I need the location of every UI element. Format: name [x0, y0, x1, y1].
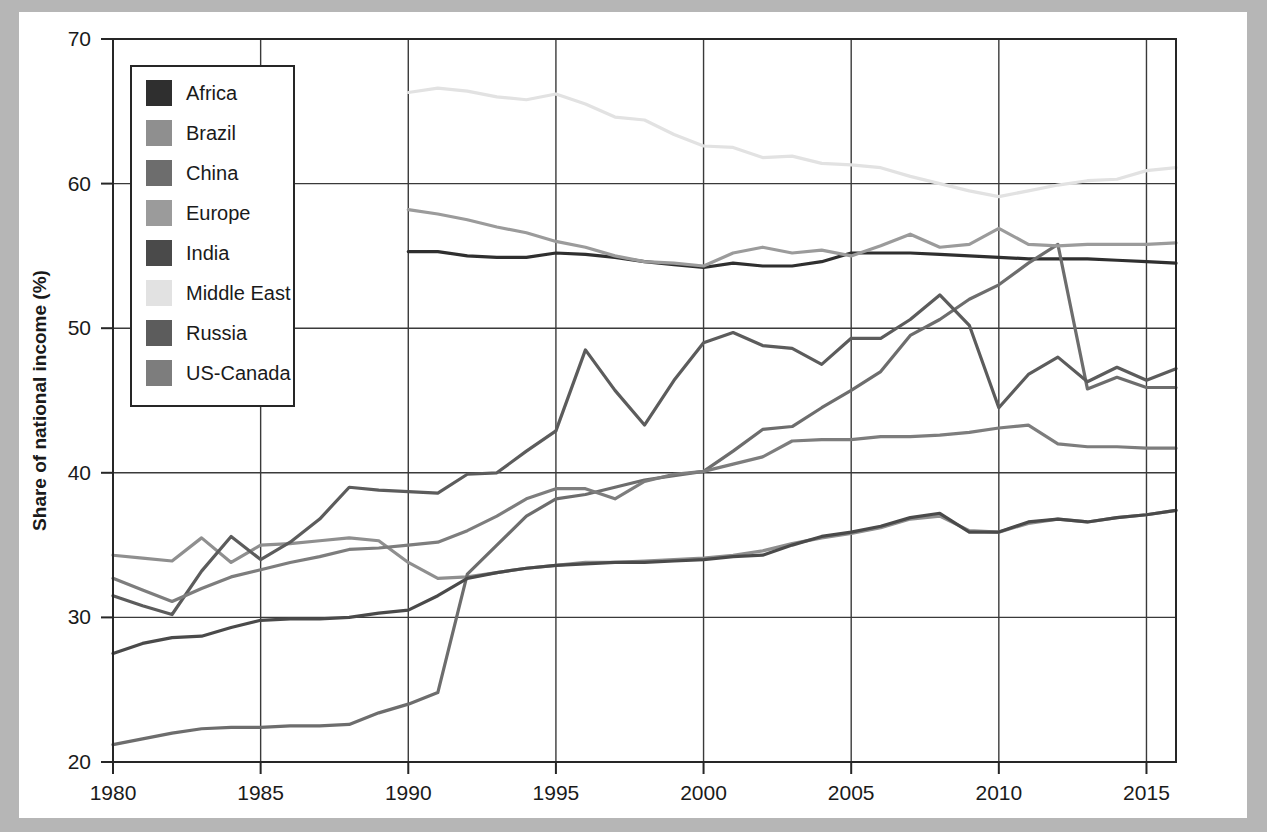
series-line-india — [113, 510, 1176, 653]
x-tick-label: 1995 — [533, 781, 580, 804]
x-tick-label: 2010 — [975, 781, 1022, 804]
legend-label-africa: Africa — [186, 82, 238, 104]
legend-swatch-russia — [146, 320, 172, 346]
legend-swatch-middle-east — [146, 280, 172, 306]
x-tick-label: 1985 — [237, 781, 284, 804]
legend-swatch-india — [146, 240, 172, 266]
legend-swatch-china — [146, 160, 172, 186]
series-line-us-canada — [113, 425, 1176, 601]
figure-root: 19801985199019952000200520102015 2030405… — [0, 0, 1267, 832]
y-tick-label: 40 — [68, 461, 91, 484]
y-tick-label: 30 — [68, 605, 91, 628]
y-tick-label: 70 — [68, 27, 91, 50]
x-axis-tick-labels: 19801985199019952000200520102015 — [90, 781, 1170, 804]
x-tick-label: 1980 — [90, 781, 137, 804]
x-tick-label: 2005 — [828, 781, 875, 804]
legend-label-us-canada: US-Canada — [186, 362, 291, 384]
legend-label-middle-east: Middle East — [186, 282, 291, 304]
series-line-middle-east — [408, 88, 1176, 196]
legend-swatch-africa — [146, 80, 172, 106]
y-tick-label: 60 — [68, 172, 91, 195]
legend-label-europe: Europe — [186, 202, 251, 224]
x-tick-label: 1990 — [385, 781, 432, 804]
legend-swatch-brazil — [146, 120, 172, 146]
legend-swatch-europe — [146, 200, 172, 226]
y-axis-tick-labels: 203040506070 — [68, 27, 91, 773]
legend-label-russia: Russia — [186, 322, 248, 344]
chart-legend: AfricaBrazilChinaEuropeIndiaMiddle EastR… — [131, 66, 294, 406]
y-tick-label: 50 — [68, 316, 91, 339]
y-axis-title: Share of national income (%) — [29, 270, 50, 531]
legend-label-china: China — [186, 162, 239, 184]
legend-label-india: India — [186, 242, 230, 264]
legend-label-brazil: Brazil — [186, 122, 236, 144]
x-tick-label: 2015 — [1123, 781, 1170, 804]
y-tick-label: 20 — [68, 750, 91, 773]
x-tick-label: 2000 — [680, 781, 727, 804]
legend-swatch-us-canada — [146, 360, 172, 386]
line-chart: 19801985199019952000200520102015 2030405… — [0, 0, 1267, 832]
